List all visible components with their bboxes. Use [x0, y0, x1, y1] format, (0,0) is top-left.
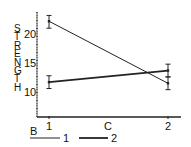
y-tick-15: 15: [24, 57, 36, 69]
error-bar: [166, 77, 171, 90]
y-tick-20: 20: [24, 28, 36, 40]
data-point: [48, 20, 50, 22]
series-line-1: [49, 21, 168, 83]
legend-title: B: [30, 125, 37, 137]
data-point: [167, 82, 169, 84]
y-axis-label-letter: H: [14, 82, 21, 93]
y-tick-10: 10: [24, 86, 36, 98]
x-tick-label-2: 2: [165, 120, 171, 132]
x-tick-label-1: 1: [46, 120, 52, 132]
legend-label-1: 1: [63, 132, 69, 144]
data-point: [48, 81, 50, 83]
x-axis-label: C: [104, 120, 112, 132]
data-point: [167, 69, 169, 71]
chart: STRENGTH 20 15 10 1 C 2 B 1 2: [0, 0, 191, 147]
series-group: [47, 15, 171, 89]
series-line-2: [49, 71, 168, 83]
legend-label-2: 2: [111, 132, 117, 144]
y-axis-label: STRENGTH: [14, 23, 22, 93]
